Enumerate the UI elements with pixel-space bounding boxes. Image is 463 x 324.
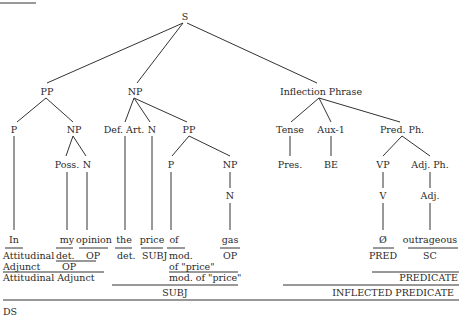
edge-s-ip — [187, 23, 317, 83]
node-p: P — [11, 124, 18, 135]
node-adj-ph: Adj. Ph. — [410, 159, 448, 170]
node-s: S — [182, 11, 189, 22]
edge-pp-p — [17, 98, 46, 122]
edge-ip-pred — [319, 98, 400, 122]
edge-np2-poss — [66, 136, 73, 156]
node-np2: NP — [67, 124, 82, 135]
fn-op-1: OP — [86, 250, 101, 261]
fn-subj: SUBJ — [162, 287, 187, 298]
word-null: Ø — [379, 234, 387, 245]
fn-op-group: OP — [62, 261, 77, 272]
fn-adjunct: Adjunct — [2, 261, 40, 272]
node-poss: Poss. — [55, 159, 80, 170]
word-my: my — [60, 234, 75, 245]
fn-predicate: PREDICATE — [399, 272, 458, 283]
edge-pred-adjph — [402, 136, 430, 156]
word-gas: gas — [222, 234, 239, 245]
node-def-art: Def. Art. — [104, 124, 145, 135]
fn-attitudinal: Attitudinal — [2, 250, 54, 261]
edge-pp-np — [46, 98, 73, 122]
node-pp: PP — [41, 86, 54, 97]
edge-s-np — [137, 23, 183, 83]
edge-pp2-p — [172, 136, 189, 156]
node-p2: P — [168, 159, 175, 170]
word-opinion: opinion — [76, 234, 112, 245]
fn-op-2: OP — [223, 250, 238, 261]
fn-of-price: of "price" — [169, 261, 215, 272]
node-tense: Tense — [276, 124, 304, 135]
edge-pred-vp — [383, 136, 402, 156]
fn-mod: mod. — [169, 250, 193, 261]
word-in: In — [9, 234, 19, 245]
node-pred-ph: Pred. Ph. — [380, 124, 424, 135]
edge-ip-tense — [291, 98, 319, 122]
node-np: NP — [128, 86, 143, 97]
node-pres: Pres. — [278, 159, 302, 170]
node-n: N — [148, 124, 156, 135]
fn-ds: DS — [3, 306, 17, 317]
node-aux: Aux-1 — [316, 124, 344, 135]
syntax-tree-diagram: S PP NP Inflection Phrase P NP Def. Art.… — [0, 0, 463, 324]
node-vp: VP — [375, 159, 390, 170]
word-of: of — [169, 234, 180, 245]
node-adj: Adj. — [420, 190, 440, 201]
edge-np-defart — [125, 98, 134, 122]
word-outrageous: outrageous — [403, 234, 457, 245]
fn-det-1: det. — [56, 250, 75, 261]
word-the: the — [116, 234, 132, 245]
fn-pred: PRED — [369, 250, 397, 261]
edge-s-pp — [47, 23, 183, 83]
node-be: BE — [324, 159, 338, 170]
fn-det-2: det. — [117, 250, 136, 261]
node-inflection-phrase: Inflection Phrase — [280, 86, 362, 97]
fn-mod-of-price: mod. of "price" — [169, 272, 241, 283]
node-pp2: PP — [183, 124, 196, 135]
fn-inflected-predicate: INFLECTED PREDICATE — [332, 287, 454, 298]
node-v: V — [379, 190, 387, 201]
word-price: price — [140, 234, 165, 245]
fn-attitudinal-adjunct: Attitudinal Adjunct — [2, 272, 95, 283]
node-n1: N — [83, 159, 91, 170]
fn-sc: SC — [423, 250, 437, 261]
edge-np2-n — [73, 136, 86, 156]
fn-subj-1: SUBJ — [142, 250, 167, 261]
node-np3: NP — [223, 159, 238, 170]
edge-ip-aux — [319, 98, 331, 122]
node-n3: N — [226, 190, 234, 201]
edge-pp2-np — [189, 136, 230, 156]
